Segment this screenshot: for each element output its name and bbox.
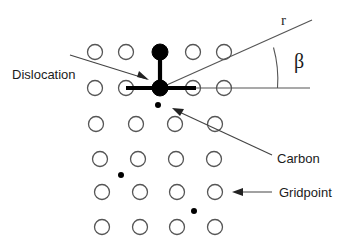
gridpoint — [208, 220, 223, 235]
angle-arc — [274, 48, 278, 89]
carbon-leader-arrowhead — [172, 108, 184, 116]
gridpoint — [131, 152, 146, 167]
carbon-dot — [191, 208, 197, 214]
dislocation-leader — [70, 55, 149, 80]
gridpoint — [133, 185, 148, 200]
gridpoint — [88, 81, 103, 96]
angle-beta-label: β — [294, 50, 304, 73]
gridpoint — [119, 45, 134, 60]
radius-ray-line — [160, 20, 312, 88]
dislocation-node-top — [152, 44, 168, 60]
gridpoint — [186, 45, 201, 60]
carbon-label: Carbon — [277, 151, 320, 166]
gridpoint — [89, 117, 104, 132]
carbon-dot — [118, 172, 124, 178]
radius-label: r — [281, 12, 286, 28]
gridpoint — [133, 220, 148, 235]
carbon-leader-line — [175, 110, 272, 155]
carbon-dot — [155, 102, 161, 108]
gridpoint — [208, 117, 223, 132]
gridpoint — [170, 220, 185, 235]
gridpoint — [93, 152, 108, 167]
gridpoint — [170, 185, 185, 200]
dislocation-leader-arrowhead — [137, 71, 149, 80]
gridpoint — [88, 45, 103, 60]
gridpoint-label: Gridpoint — [279, 185, 332, 200]
carbon-leader — [172, 108, 272, 155]
diagram-canvas: Dislocation Carbon Gridpoint r β — [0, 0, 352, 245]
gridpoint — [208, 185, 223, 200]
dislocation-leader-line — [70, 55, 147, 79]
dislocation-label: Dislocation — [12, 67, 76, 82]
dislocation-node-core — [152, 80, 168, 96]
gridpoint — [95, 220, 110, 235]
gridpoint — [207, 152, 222, 167]
gridpoint-leader — [232, 188, 272, 196]
gridpoint — [95, 185, 110, 200]
gridpoint — [168, 117, 183, 132]
gridpoint-leader-arrowhead — [232, 188, 243, 196]
gridpoint — [169, 152, 184, 167]
gridpoint — [129, 117, 144, 132]
dislocation-diagram: Dislocation Carbon Gridpoint r β — [0, 0, 352, 245]
